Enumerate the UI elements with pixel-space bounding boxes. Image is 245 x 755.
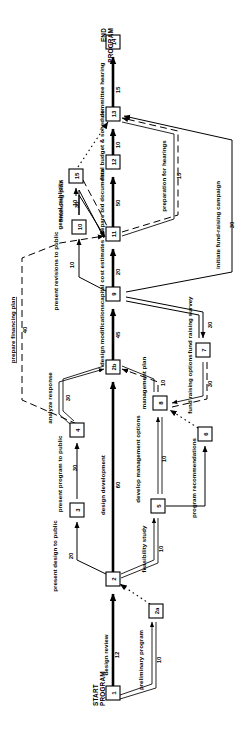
svg-text:analyze response: analyze response <box>46 372 53 424</box>
svg-text:45: 45 <box>115 331 121 338</box>
node-15[interactable]: 15 <box>69 169 83 183</box>
svg-text:prepare financing plan: prepare financing plan <box>9 297 16 364</box>
activity-present-revisions-to-public: present revisions to public 10 <box>52 231 75 310</box>
terminal-end: END PROGRAM <box>100 28 114 63</box>
svg-text:initiate fund-raising campaign: initiate fund-raising campaign <box>214 181 221 269</box>
svg-text:30: 30 <box>207 321 213 328</box>
node-8[interactable]: 8 <box>153 396 167 410</box>
svg-text:preliminary program: preliminary program <box>137 629 144 690</box>
activity-present-program-to-public: present program to public 30 <box>56 435 78 512</box>
svg-text:30: 30 <box>207 380 213 387</box>
node-5[interactable]: 5 <box>151 499 165 513</box>
node-10[interactable]: 10 <box>72 220 86 234</box>
node-2a-label: 2a <box>154 607 160 614</box>
node-15-label: 15 <box>74 172 80 179</box>
edge-program-recommendations <box>166 446 205 506</box>
activity-preparation-for-hearings: preparation for hearings 15 <box>160 140 182 212</box>
svg-text:10: 10 <box>115 141 121 148</box>
node-2a[interactable]: 2a <box>149 604 163 618</box>
svg-text:design modifications: design modifications <box>98 304 105 366</box>
svg-text:15: 15 <box>176 172 182 179</box>
node-13-label: 13 <box>111 110 117 117</box>
node-hub-label: 2b <box>111 363 117 370</box>
svg-text:50: 50 <box>115 199 121 206</box>
svg-text:present revisions to public: present revisions to public <box>52 231 59 310</box>
activity-financing-plan: financing plan 10 <box>57 180 78 222</box>
node-6[interactable]: 6 <box>198 427 212 441</box>
node-2[interactable]: 2 <box>106 572 120 586</box>
svg-text:final budget & schedule: final budget & schedule <box>98 110 105 180</box>
svg-text:40: 40 <box>22 326 28 333</box>
svg-text:present program to public: present program to public <box>56 435 63 512</box>
node-hub[interactable]: 2b <box>106 360 120 374</box>
svg-text:10: 10 <box>158 545 164 552</box>
svg-text:30: 30 <box>72 464 78 471</box>
node-12-label: 12 <box>111 158 117 165</box>
branch-develop-management-options <box>158 417 162 494</box>
svg-text:10: 10 <box>72 199 78 206</box>
svg-text:feasibility study: feasibility study <box>140 525 147 572</box>
activity-design-review: design review 12 <box>102 634 120 675</box>
node-11-label: 11 <box>111 230 117 237</box>
diagram-svg: 1 2 2a 3 4 <box>0 0 245 755</box>
activity-present-design-to-public: present design to public 20 <box>51 520 74 592</box>
svg-text:20: 20 <box>115 268 121 275</box>
svg-text:10: 10 <box>69 261 75 268</box>
svg-text:30: 30 <box>229 221 235 228</box>
dummy-2a-to-2 <box>120 584 150 604</box>
node-9[interactable]: 9 <box>106 287 120 301</box>
svg-text:design review: design review <box>102 634 109 675</box>
node-1[interactable]: 1 <box>106 686 120 700</box>
svg-text:60: 60 <box>115 481 121 488</box>
network-diagram-canvas: 1 2 2a 3 4 <box>0 0 245 755</box>
svg-text:fund raising survey: fund raising survey <box>186 296 193 354</box>
svg-text:10: 10 <box>160 379 166 386</box>
svg-text:present design to public: present design to public <box>51 520 58 592</box>
activity-design-development: design development 60 <box>99 455 121 515</box>
svg-text:12: 12 <box>114 651 120 658</box>
svg-text:program recommendations: program recommendations <box>190 437 197 518</box>
node-11[interactable]: 11 <box>106 227 120 241</box>
branch-preparation-for-hearings <box>122 118 178 236</box>
start-label-line1: START <box>92 684 99 706</box>
svg-text:20: 20 <box>68 552 74 559</box>
branch-present-design-to-public <box>77 522 106 574</box>
svg-text:develop management options: develop management options <box>134 415 141 503</box>
svg-text:15: 15 <box>115 86 121 93</box>
activity-fund-raising-options: fund raising options 30 <box>186 354 213 414</box>
node-3[interactable]: 3 <box>70 503 84 517</box>
svg-text:management plan: management plan <box>140 356 147 409</box>
svg-text:30: 30 <box>65 394 71 401</box>
node-7[interactable]: 7 <box>196 343 210 357</box>
activity-preliminary-program: preliminary program 10 <box>137 629 162 690</box>
svg-text:design development: design development <box>99 455 106 515</box>
svg-text:financing plan: financing plan <box>57 180 64 222</box>
node-4[interactable]: 4 <box>70 423 84 437</box>
activity-prepare-financing-plan: prepare financing plan 40 <box>9 297 28 364</box>
end-label-line1: END <box>100 28 107 42</box>
svg-text:10: 10 <box>161 455 167 462</box>
activity-design-modifications: design modifications 45 <box>98 304 121 366</box>
svg-text:preparation for hearings: preparation for hearings <box>160 140 167 212</box>
node-10-label: 10 <box>77 223 83 230</box>
svg-text:capital cost estimates: capital cost estimates <box>98 239 105 304</box>
activity-program-recommendations: program recommendations <box>190 437 197 518</box>
end-label-line2: PROGRAM <box>107 28 114 63</box>
svg-text:fund raising options: fund raising options <box>186 354 193 414</box>
svg-text:committee hearing: committee hearing <box>98 62 105 117</box>
node-12[interactable]: 12 <box>106 155 120 169</box>
node-13[interactable]: 13 <box>106 107 120 121</box>
svg-text:10: 10 <box>156 656 162 663</box>
dummy-6-to-8 <box>170 410 198 428</box>
